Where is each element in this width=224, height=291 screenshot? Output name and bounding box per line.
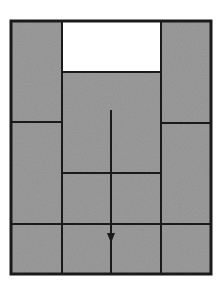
puzzle-piece-left-tall bbox=[11, 21, 62, 122]
puzzle-piece-left-mid bbox=[11, 122, 62, 224]
puzzle-piece-right-tall bbox=[161, 21, 211, 123]
puzzle-piece-bottom-3 bbox=[111, 224, 161, 274]
sliding-block-puzzle-diagram bbox=[0, 0, 224, 291]
puzzle-piece-center-right-small bbox=[111, 173, 161, 224]
empty-slot bbox=[62, 21, 161, 72]
puzzle-piece-center-left-small bbox=[62, 173, 111, 224]
puzzle-piece-bottom-2 bbox=[62, 224, 111, 274]
puzzle-piece-right-mid bbox=[161, 123, 211, 224]
puzzle-piece-bottom-4 bbox=[161, 224, 211, 274]
puzzle-piece-bottom-1 bbox=[11, 224, 62, 274]
